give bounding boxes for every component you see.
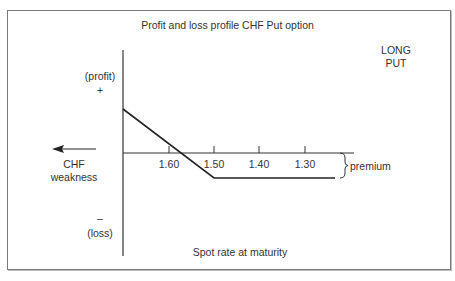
x-tick-label-1-30: 1.30 — [290, 158, 320, 171]
chart-title: Profit and loss profile CHF Put option — [110, 19, 345, 32]
premium-brace — [340, 153, 348, 178]
x-tick-label-1-40: 1.40 — [244, 158, 274, 171]
x-tick-label-1-60: 1.60 — [154, 158, 184, 171]
corner-label-put: PUT — [376, 57, 416, 70]
x-tick-label-1-50: 1.50 — [199, 158, 229, 171]
y-label-plus: + — [80, 84, 120, 97]
chart-plot — [0, 0, 455, 281]
direction-label-weakness: weakness — [45, 171, 103, 184]
y-label-loss: (loss) — [80, 227, 120, 240]
x-axis-label: Spot rate at maturity — [180, 246, 300, 259]
y-label-minus: – — [80, 212, 120, 225]
direction-label-chf: CHF — [45, 158, 103, 171]
y-label-profit: (profit) — [80, 70, 120, 83]
corner-label-long: LONG — [376, 44, 416, 57]
premium-label: premium — [350, 160, 391, 173]
